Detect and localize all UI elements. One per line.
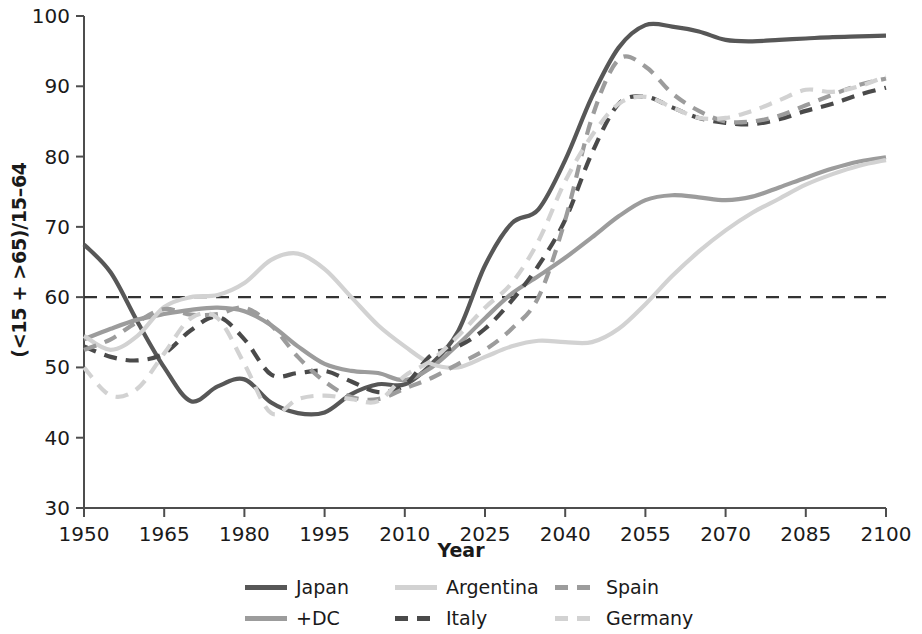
series-line-italy — [84, 88, 886, 392]
y-tick-label: 90 — [45, 74, 70, 98]
tick-label-layer: 3040506070809010019501965198019952010202… — [32, 4, 912, 546]
series-layer — [84, 24, 886, 415]
chart-legend: JapanArgentinaSpain+DCItalyGermany — [245, 572, 705, 634]
legend-item-dc[interactable]: +DC — [245, 609, 395, 628]
legend-swatch-icon — [555, 585, 597, 590]
legend-swatch-icon — [395, 585, 437, 590]
legend-swatch-icon — [395, 616, 437, 621]
y-tick-label: 50 — [45, 355, 70, 379]
legend-swatch-icon — [245, 585, 287, 590]
y-tick-label: 70 — [45, 215, 70, 239]
legend-swatch-icon — [555, 616, 597, 621]
y-axis-label-text: (<15 + >65)/15–64 — [8, 162, 30, 357]
legend-item-label: Italy — [446, 609, 487, 628]
legend-item-label: Spain — [606, 578, 659, 597]
legend-item-argentina[interactable]: Argentina — [395, 578, 555, 597]
y-tick-label: 40 — [45, 426, 70, 450]
legend-item-germany[interactable]: Germany — [555, 609, 705, 628]
legend-item-spain[interactable]: Spain — [555, 578, 705, 597]
y-tick-label: 100 — [32, 4, 70, 28]
legend-swatch-icon — [245, 616, 287, 621]
x-axis-label: Year — [0, 539, 922, 561]
chart-figure: 3040506070809010019501965198019952010202… — [0, 0, 922, 634]
y-axis-label: (<15 + >65)/15–64 — [2, 130, 36, 390]
legend-item-label: Argentina — [446, 578, 539, 597]
legend-item-label: Germany — [606, 609, 693, 628]
y-tick-label: 80 — [45, 145, 70, 169]
y-tick-label: 60 — [45, 285, 70, 309]
axis-layer — [76, 16, 886, 517]
series-line-germany — [84, 76, 886, 414]
legend-item-italy[interactable]: Italy — [395, 609, 555, 628]
y-tick-label: 30 — [45, 496, 70, 520]
legend-item-label: +DC — [296, 609, 340, 628]
legend-item-japan[interactable]: Japan — [245, 578, 395, 597]
legend-item-label: Japan — [296, 578, 349, 597]
